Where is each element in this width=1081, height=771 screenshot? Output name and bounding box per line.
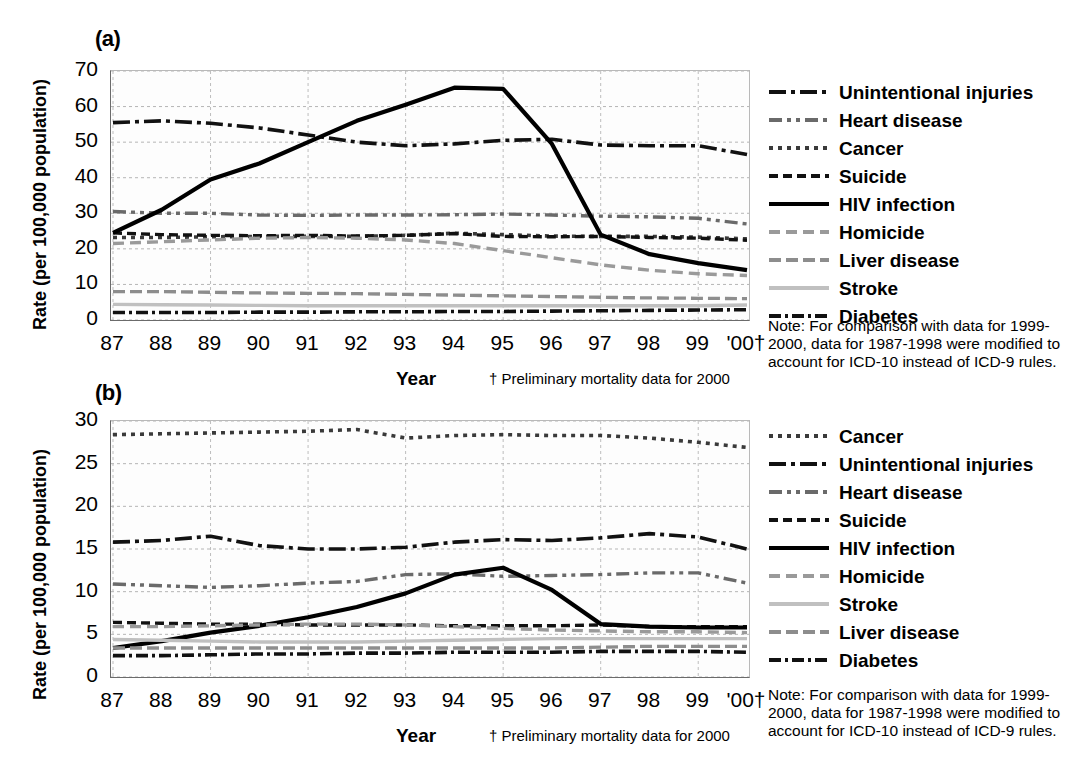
- series-line: [113, 121, 747, 155]
- panel-a-legend: Unintentional injuriesHeart diseaseCance…: [768, 78, 1033, 330]
- x-tick-label: 92: [334, 331, 378, 355]
- legend-swatch-icon: [768, 197, 830, 211]
- legend-label: Suicide: [839, 511, 907, 530]
- panel-b: (b) Rate (per 100,000 population) 051015…: [0, 380, 1081, 771]
- series-line: [113, 430, 747, 448]
- y-tick-label: 60: [52, 93, 98, 117]
- legend-swatch-icon: [768, 113, 830, 127]
- legend-label: HIV infection: [839, 539, 955, 558]
- y-tick-label: 0: [52, 663, 98, 687]
- panel-b-x-axis-title: Year: [396, 725, 436, 747]
- x-tick-label: 87: [90, 331, 134, 355]
- x-tick-label: 97: [578, 331, 622, 355]
- y-tick-label: 5: [52, 620, 98, 644]
- legend-item[interactable]: Cancer: [768, 422, 1033, 450]
- series-line: [113, 646, 747, 648]
- legend-swatch-icon: [768, 429, 830, 443]
- x-tick-label: 89: [188, 331, 232, 355]
- legend-item[interactable]: Diabetes: [768, 646, 1033, 674]
- x-tick-label: 93: [383, 688, 427, 712]
- panel-a-y-axis-title: Rate (per 100,000 population): [30, 79, 51, 330]
- x-tick-label: 94: [431, 688, 475, 712]
- y-tick-label: 25: [52, 450, 98, 474]
- legend-item[interactable]: Homicide: [768, 218, 1033, 246]
- legend-label: Unintentional injuries: [839, 83, 1033, 102]
- x-tick-label: 88: [139, 688, 183, 712]
- legend-item[interactable]: HIV infection: [768, 534, 1033, 562]
- y-tick-label: 10: [52, 270, 98, 294]
- legend-item[interactable]: Stroke: [768, 274, 1033, 302]
- legend-label: Homicide: [839, 567, 925, 586]
- legend-label: Heart disease: [839, 483, 963, 502]
- legend-label: Stroke: [839, 595, 898, 614]
- x-tick-label: 93: [383, 331, 427, 355]
- panel-b-legend: CancerUnintentional injuriesHeart diseas…: [768, 422, 1033, 674]
- x-tick-label: 90: [236, 688, 280, 712]
- legend-swatch-icon: [768, 141, 830, 155]
- x-tick-label: 95: [480, 688, 524, 712]
- legend-label: Liver disease: [839, 623, 959, 642]
- x-tick-label: 98: [626, 688, 670, 712]
- legend-swatch-icon: [768, 513, 830, 527]
- panel-b-note: Note: For comparison with data for 1999-…: [768, 686, 1081, 740]
- legend-item[interactable]: Heart disease: [768, 478, 1033, 506]
- legend-swatch-icon: [768, 225, 830, 239]
- legend-swatch-icon: [768, 169, 830, 183]
- x-tick-label: 97: [578, 688, 622, 712]
- y-tick-label: 30: [52, 407, 98, 431]
- legend-item[interactable]: Stroke: [768, 590, 1033, 618]
- legend-item[interactable]: Liver disease: [768, 618, 1033, 646]
- plot-svg: [111, 421, 749, 677]
- panel-a-plot-area: [110, 70, 750, 321]
- legend-swatch-icon: [768, 653, 830, 667]
- x-tick-label: '00†: [724, 331, 768, 355]
- series-line: [113, 534, 747, 549]
- legend-label: Suicide: [839, 167, 907, 186]
- y-tick-label: 20: [52, 235, 98, 259]
- panel-a-note: Note: For comparison with data for 1999-…: [768, 317, 1081, 371]
- legend-label: HIV infection: [839, 195, 955, 214]
- x-tick-label: 91: [285, 688, 329, 712]
- y-tick-label: 40: [52, 164, 98, 188]
- panel-b-y-axis-title: Rate (per 100,000 population): [30, 449, 51, 700]
- legend-swatch-icon: [768, 597, 830, 611]
- x-tick-label: 99: [675, 688, 719, 712]
- series-line: [113, 88, 747, 270]
- panel-a: (a) Rate (per 100,000 population) 010203…: [0, 0, 1081, 395]
- y-tick-label: 15: [52, 535, 98, 559]
- legend-item[interactable]: Cancer: [768, 134, 1033, 162]
- panel-a-label: (a): [95, 26, 120, 52]
- legend-swatch-icon: [768, 253, 830, 267]
- legend-item[interactable]: Unintentional injuries: [768, 78, 1033, 106]
- legend-swatch-icon: [768, 569, 830, 583]
- plot-svg: [111, 71, 749, 320]
- y-tick-label: 50: [52, 128, 98, 152]
- legend-swatch-icon: [768, 85, 830, 99]
- x-tick-label: 96: [529, 688, 573, 712]
- x-tick-label: 99: [675, 331, 719, 355]
- legend-item[interactable]: Heart disease: [768, 106, 1033, 134]
- series-line: [113, 639, 747, 642]
- y-tick-label: 20: [52, 492, 98, 516]
- legend-swatch-icon: [768, 281, 830, 295]
- y-tick-label: 30: [52, 199, 98, 223]
- legend-label: Diabetes: [839, 651, 918, 670]
- legend-label: Homicide: [839, 223, 925, 242]
- y-tick-label: 0: [52, 306, 98, 330]
- legend-item[interactable]: Homicide: [768, 562, 1033, 590]
- x-tick-label: 91: [285, 331, 329, 355]
- series-line: [113, 568, 747, 648]
- legend-item[interactable]: Suicide: [768, 506, 1033, 534]
- legend-label: Unintentional injuries: [839, 455, 1033, 474]
- legend-label: Cancer: [839, 427, 903, 446]
- legend-item[interactable]: Liver disease: [768, 246, 1033, 274]
- legend-item[interactable]: HIV infection: [768, 190, 1033, 218]
- series-line: [113, 292, 747, 299]
- legend-label: Liver disease: [839, 251, 959, 270]
- legend-item[interactable]: Unintentional injuries: [768, 450, 1033, 478]
- y-tick-label: 10: [52, 578, 98, 602]
- series-line: [113, 310, 747, 313]
- legend-label: Cancer: [839, 139, 903, 158]
- x-tick-label: '00†: [724, 688, 768, 712]
- legend-item[interactable]: Suicide: [768, 162, 1033, 190]
